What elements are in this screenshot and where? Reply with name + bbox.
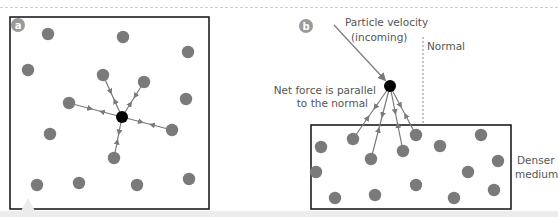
neighbor-particle (166, 124, 178, 136)
panel-b-surface-particles (347, 129, 422, 165)
intermolecular-forces-diagram: a b Particle velocity (incoming) Normal … (0, 0, 558, 217)
net-force-label-line1: Net force is parallel (274, 84, 376, 96)
force-line (114, 117, 122, 158)
velocity-label-line1: Particle velocity (345, 16, 428, 28)
force-line (390, 86, 416, 135)
particle (369, 189, 381, 201)
force-arrowhead-icon (378, 130, 379, 132)
force-arrowhead-icon (102, 112, 104, 113)
force-arrowhead-icon (88, 108, 90, 109)
force-arrowhead-icon (375, 106, 376, 108)
force-line (371, 86, 390, 159)
particle (183, 173, 195, 185)
panel-a-badge-label: a (15, 20, 22, 31)
force-line (390, 86, 403, 151)
particle (73, 177, 85, 189)
surface-particle (410, 129, 422, 141)
particle (42, 28, 54, 40)
particle (410, 179, 422, 191)
force-arrowhead-icon (152, 125, 154, 126)
particle (180, 93, 192, 105)
panel-a-particles (22, 28, 195, 191)
particle (315, 141, 327, 153)
panel-b: b Particle velocity (incoming) Normal Ne… (274, 16, 558, 209)
medium-label-line1: Denser (517, 154, 555, 166)
particle (434, 140, 446, 152)
normal-label: Normal (427, 40, 465, 52)
surface-particle (347, 133, 359, 145)
particle (488, 184, 500, 196)
velocity-label-line2: (incoming) (351, 31, 407, 43)
particle (182, 46, 194, 58)
neighbor-particle (108, 152, 120, 164)
net-force-label-line2: to the normal (297, 97, 368, 109)
particle (31, 179, 43, 191)
neighbor-particle (63, 97, 75, 109)
caption-pointer-icon (21, 198, 35, 211)
particle (22, 64, 34, 76)
force-arrowhead-icon (367, 118, 368, 120)
surface-particle (397, 145, 409, 157)
force-line (122, 117, 172, 130)
particle (329, 192, 341, 204)
panel-a-central-particle (116, 111, 128, 123)
particle (310, 166, 322, 178)
particle (475, 129, 487, 141)
particle (448, 192, 460, 204)
force-arrowhead-icon (139, 121, 141, 122)
particle (44, 128, 56, 140)
particle (462, 166, 474, 178)
panel-b-incoming-particle (384, 80, 396, 92)
panel-b-badge-label: b (302, 21, 309, 32)
panel-a: a (10, 17, 209, 209)
surface-particle (365, 153, 377, 165)
force-arrowhead-icon (382, 113, 383, 115)
panel-b-badge: b (299, 19, 313, 33)
particle (117, 31, 129, 43)
force-arrowhead-icon (135, 94, 136, 96)
neighbor-particle (97, 69, 109, 81)
particle (492, 155, 504, 167)
caption-bar (0, 211, 558, 217)
force-line (103, 75, 122, 117)
medium-label-line2: medium (515, 168, 558, 180)
neighbor-particle (138, 76, 150, 88)
particle (131, 179, 143, 191)
panel-a-badge: a (11, 18, 25, 32)
panel-b-particles (310, 129, 504, 204)
force-line (69, 103, 122, 117)
force-arrowhead-icon (129, 104, 130, 106)
force-line (122, 82, 144, 117)
